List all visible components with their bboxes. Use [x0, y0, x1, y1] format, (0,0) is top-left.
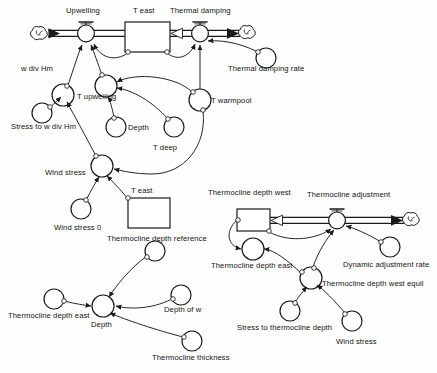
link-dynamic-adjustment-rate-to-adjustment: [346, 226, 381, 242]
variable-thermocline-depth-east-lower[interactable]: [44, 289, 64, 309]
cloud-thermal-damping-sink-icon: [238, 25, 255, 38]
stock-t-east-lower[interactable]: [128, 198, 170, 228]
port-equil-left: [300, 270, 305, 275]
label-variable-wind-stress-lower: Wind stress: [336, 337, 377, 346]
link-stress-to-thermocline-depth-to-equil: [295, 287, 307, 302]
label-stock-thermocline-depth-west: Thermocline depth west: [208, 188, 291, 197]
variable-thermocline-thickness[interactable]: [182, 331, 202, 351]
label-variable-thermocline-thickness: Thermocline thickness: [152, 353, 230, 362]
variable-wind-stress-0[interactable]: [71, 199, 91, 219]
port-t-east-lower: [126, 196, 131, 201]
link-w-div-hm-to-upwelling: [68, 45, 82, 85]
port-wind-stress-lower: [343, 312, 348, 317]
valve-upwelling[interactable]: [78, 22, 95, 42]
label-flow-thermocline-adjustment: Thermocline adjustment: [307, 190, 390, 199]
variable-wind-stress-main[interactable]: [91, 155, 113, 177]
port-wind-stress-top: [94, 154, 99, 159]
port-thermocline-depth-reference: [145, 255, 150, 260]
port-dynamic-adjustment-rate: [379, 240, 384, 245]
link-t-upwelling-to-upwelling: [91, 45, 102, 75]
label-stock-t-east-lower: T east: [131, 186, 153, 195]
label-flow-thermal-damping: Thermal damping: [170, 6, 231, 15]
label-variable-depth-of-w: Depth of w: [164, 305, 201, 314]
label-variable-t-deep: T deep: [153, 143, 177, 152]
label-variable-thermal-damping-rate: Thermal damping rate: [228, 64, 304, 73]
label-variable-wind-stress-main: Wind stress: [45, 168, 86, 177]
port-t-deep: [166, 117, 171, 122]
variable-depth-of-w[interactable]: [171, 285, 191, 305]
label-variable-thermocline-depth-reference: Thermocline depth reference: [107, 234, 207, 243]
port-wind-stress-0: [84, 198, 89, 203]
label-variable-wind-stress-0: Wind stress 0: [54, 223, 101, 232]
port-t-east-top-left: [126, 50, 131, 55]
port-w-div-hm-top: [65, 84, 70, 89]
port-thermocline-depth-east-lower: [62, 299, 67, 304]
link-t-deep-to-t-upwelling: [117, 88, 168, 119]
port-thermocline-thickness: [182, 335, 187, 340]
label-variable-depth-upper: Depth: [128, 123, 149, 132]
cloud-upwelling-source-icon: [30, 26, 47, 39]
link-thermocline-depth-reference-to-depth: [109, 256, 147, 297]
port-equil-top: [312, 266, 317, 271]
label-variable-thermocline-depth-east: Thermocline depth east: [211, 261, 293, 270]
port-t-upwelling-top: [100, 73, 105, 78]
port-tdw-right: [267, 229, 272, 234]
cloud-thermocline-sink-icon: [402, 212, 419, 225]
label-variable-w-div-hm: w div Hm: [21, 64, 53, 73]
link-t-east-lower-to-wind-stress: [107, 176, 128, 199]
label-variable-thermocline-depth-east-lower: Thermocline depth east: [8, 311, 90, 320]
variable-thermocline-depth-east[interactable]: [242, 238, 264, 260]
port-stress-to-w-div-hm: [48, 105, 53, 110]
link-t-east-top-to-upwelling: [94, 44, 128, 58]
valve-thermal-damping[interactable]: [192, 22, 209, 42]
label-flow-upwelling: Upwelling: [66, 6, 100, 15]
label-variable-t-upwelling: T upwelling: [77, 92, 116, 101]
link-t-east-top-to-thermal-damping: [167, 44, 195, 57]
port-depth-upper: [112, 116, 117, 121]
link-t-warmpool-to-t-upwelling: [117, 77, 192, 92]
label-variable-dynamic-adjustment-rate: Dynamic adjustment rate: [343, 260, 429, 269]
variable-depth-upper[interactable]: [106, 117, 126, 137]
stock-thermocline-depth-west[interactable]: [237, 209, 270, 231]
variable-dynamic-adjustment-rate[interactable]: [380, 237, 400, 257]
valve-thermocline-adjustment[interactable]: [329, 209, 346, 229]
port-tdw-left: [236, 218, 241, 223]
port-stress-to-thermocline-depth: [293, 301, 298, 306]
link-thermal-damping-rate-to-thermal-damping: [208, 41, 258, 52]
label-variable-thermocline-depth-west-equil: Thermocline depth west equil: [322, 279, 424, 288]
label-variable-depth-lower: Depth: [91, 320, 112, 329]
port-t-warmpool-bottom: [201, 108, 206, 113]
diagram-canvas: Upwelling T east Thermal damping Thermal…: [0, 0, 437, 373]
label-variable-t-warmpool: T warmpool: [211, 96, 252, 105]
link-wind-stress-lower-to-equil: [317, 285, 345, 313]
label-stock-t-east-top: T east: [133, 6, 155, 15]
link-thermocline-depth-east-lower-to-depth: [64, 301, 91, 306]
link-thermocline-depth-west-to-adjustment: [269, 229, 331, 239]
link-thermocline-thickness-to-depth: [110, 313, 183, 337]
label-variable-stress-to-thermocline-depth: Stress to thermocline depth: [237, 323, 332, 332]
stock-t-east-top[interactable]: [125, 22, 170, 52]
port-t-warmpool-top: [191, 90, 196, 95]
label-variable-stress-to-w-div-hm: Stress to w div Hm: [11, 122, 76, 131]
port-depth-of-w: [171, 297, 176, 302]
link-wind-stress-0-to-wind-stress: [86, 177, 99, 200]
port-thermal-damping-rate: [256, 50, 261, 55]
port-t-east-top-right: [165, 50, 170, 55]
